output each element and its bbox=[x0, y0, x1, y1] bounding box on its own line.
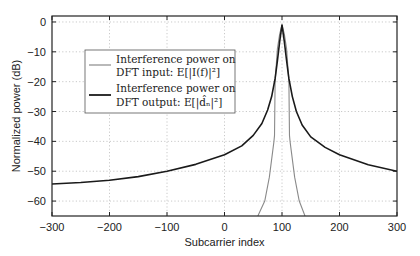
x-tick-label: 200 bbox=[330, 221, 348, 233]
y-tick-label: −40 bbox=[27, 135, 46, 147]
x-tick-label: 300 bbox=[388, 221, 406, 233]
legend: Interference power on DFT input: E[|I(f)… bbox=[85, 50, 236, 113]
y-tick-labels: 0−10−20−30−40−50−60 bbox=[27, 16, 46, 207]
x-tick-label: 100 bbox=[273, 221, 291, 233]
x-tick-label: −300 bbox=[40, 221, 65, 233]
interference-power-chart: −300−200−1000100200300 0−10−20−30−40−50−… bbox=[0, 0, 420, 256]
legend-label-dft-output-line2: DFT output: E[|d̂ₙ|²] bbox=[116, 95, 222, 110]
x-tick-labels: −300−200−1000100200300 bbox=[40, 221, 407, 233]
y-tick-label: −60 bbox=[27, 195, 46, 207]
x-axis-label: Subcarrier index bbox=[184, 236, 265, 248]
y-tick-label: −20 bbox=[27, 76, 46, 88]
legend-label-dft-input-line2: DFT input: E[|I(f)|²] bbox=[116, 66, 220, 80]
x-tick-label: −100 bbox=[155, 221, 180, 233]
series-dft-input bbox=[258, 25, 305, 216]
grid-lines bbox=[52, 16, 397, 216]
y-tick-label: −30 bbox=[27, 106, 46, 118]
y-tick-label: −10 bbox=[27, 46, 46, 58]
y-tick-label: 0 bbox=[40, 16, 46, 28]
y-tick-label: −50 bbox=[27, 165, 46, 177]
y-axis-label: Normalized power (dB) bbox=[10, 60, 22, 172]
x-tick-label: −200 bbox=[97, 221, 122, 233]
legend-label-dft-output-line1: Interference power on bbox=[116, 82, 236, 94]
legend-label-dft-input-line1: Interference power on bbox=[116, 53, 236, 65]
x-tick-label: 0 bbox=[221, 221, 227, 233]
